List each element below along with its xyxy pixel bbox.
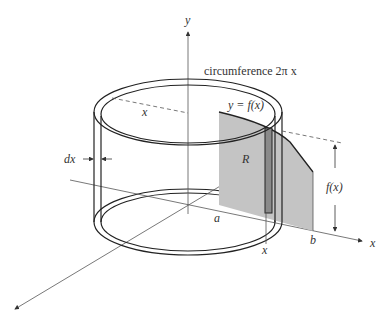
bottom-ellipse-front [94,222,282,255]
circumference-label: circumference 2π x [204,64,297,78]
radius-label: x [141,105,148,119]
region-label: R [241,152,250,166]
dx-label: dx [64,152,76,166]
x-tick-label: x [261,243,268,257]
height-label: f(x) [326,180,343,194]
b-label: b [310,233,316,247]
curve-label: y = f(x) [227,98,264,112]
x-axis-label: x [369,236,376,250]
a-label: a [214,211,220,225]
shell-strip [265,128,272,213]
y-axis-label: y [184,13,191,27]
shell-method-diagram: y x circumference 2π x y = f(x) x dx R a… [0,0,387,312]
